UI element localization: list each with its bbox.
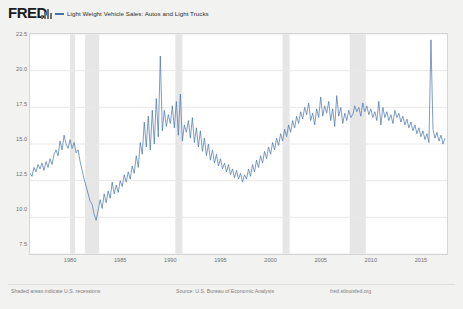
- x-tick-label: 1985: [114, 257, 126, 263]
- x-tick-label: 1980: [64, 257, 76, 263]
- legend-item-label: Light Weight Vehicle Sales: Autos and Li…: [67, 10, 209, 17]
- y-tick-label: 12.5: [3, 171, 27, 177]
- chart-legend[interactable]: Light Weight Vehicle Sales: Autos and Li…: [55, 8, 209, 19]
- footer-divider: [8, 284, 455, 285]
- x-tick-label: 2000: [264, 257, 276, 263]
- plot-area: [29, 33, 448, 255]
- y-tick-label: 20.0: [3, 66, 27, 72]
- source-note: Source: U.S. Bureau of Economic Analysis: [176, 288, 274, 294]
- chart-footer: Shaded areas indicate U.S. recessions So…: [0, 288, 463, 302]
- y-axis: 22.5 20.0 17.5 15.0 12.5 10.0 7.5: [0, 33, 27, 255]
- fred-bars-icon: [41, 8, 52, 19]
- y-tick-label: 7.5: [3, 241, 27, 247]
- x-tick-label: 2015: [415, 257, 427, 263]
- y-tick-label: 22.5: [3, 31, 27, 37]
- y-tick-label: 15.0: [3, 136, 27, 142]
- fred-site-link[interactable]: fred.stlouisfed.org: [330, 288, 371, 294]
- x-tick-label: 1990: [164, 257, 176, 263]
- chart-header: FRED Light Weight Vehicle Sales: Autos a…: [0, 0, 463, 27]
- y-tick-label: 10.0: [3, 206, 27, 212]
- series-chart-svg: [30, 34, 447, 254]
- legend-color-swatch: [55, 13, 64, 15]
- x-axis: 1980 1985 1990 1995 2000 2005 2010 2015: [29, 257, 448, 269]
- x-tick-label: 1995: [214, 257, 226, 263]
- fred-chart-figure: FRED Light Weight Vehicle Sales: Autos a…: [0, 0, 463, 309]
- plot-canvas: [30, 34, 447, 254]
- x-tick-label: 2010: [365, 257, 377, 263]
- recession-note: Shaded areas indicate U.S. recessions: [11, 288, 100, 294]
- x-tick-label: 2005: [314, 257, 326, 263]
- y-tick-label: 17.5: [3, 101, 27, 107]
